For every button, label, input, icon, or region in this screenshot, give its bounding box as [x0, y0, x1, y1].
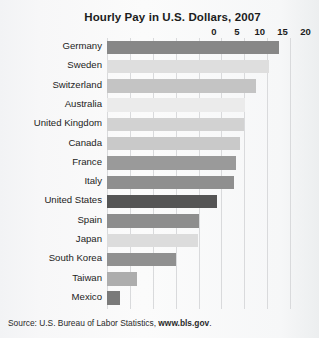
x-tick-5: 5 [234, 26, 239, 37]
category-label-united-states: United States [44, 193, 102, 207]
category-label-canada: Canada [68, 136, 102, 150]
x-tick-0: 0 [211, 26, 216, 37]
category-label-spain: Spain [77, 213, 102, 227]
x-tick-10: 10 [254, 26, 265, 37]
bar-row: Italy [107, 173, 290, 192]
bar-japan [107, 234, 198, 247]
x-axis-tick-labels: 0510152025303540 [107, 0, 290, 38]
bar-row: United States [107, 192, 290, 211]
bar-united-states [107, 195, 217, 208]
source-link[interactable]: www.bls.gov [158, 318, 209, 328]
plot-area: GermanySwedenSwitzerlandAustraliaUnited … [107, 38, 290, 309]
bar-united-kingdom [107, 118, 244, 131]
category-label-taiwan: Taiwan [72, 271, 102, 285]
bar-south-korea [107, 253, 176, 266]
category-label-sweden: Sweden [67, 58, 102, 72]
category-label-italy: Italy [84, 174, 102, 188]
chart-figure: Hourly Pay in U.S. Dollars, 2007 0510152… [0, 0, 319, 338]
category-label-australia: Australia [65, 97, 102, 111]
category-label-switzerland: Switzerland [52, 78, 102, 92]
bar-row: Australia [107, 96, 290, 115]
bar-row: France [107, 154, 290, 173]
bar-spain [107, 214, 199, 227]
x-tick-15: 15 [277, 26, 288, 37]
category-label-mexico: Mexico [72, 290, 102, 304]
category-label-france: France [72, 155, 102, 169]
bar-row: Sweden [107, 57, 290, 76]
bar-france [107, 156, 236, 169]
bar-row: United Kingdom [107, 115, 290, 134]
bar-row: Germany [107, 38, 290, 57]
bar-germany [107, 41, 279, 54]
bar-australia [107, 98, 245, 111]
bar-row: Japan [107, 231, 290, 250]
bar-taiwan [107, 272, 137, 285]
bar-italy [107, 176, 234, 189]
bar-sweden [107, 60, 269, 73]
source-prefix: Source: U.S. Bureau of Labor Statistics, [8, 318, 158, 328]
bar-row: Spain [107, 212, 290, 231]
source-note: Source: U.S. Bureau of Labor Statistics,… [8, 318, 212, 328]
bar-row: Canada [107, 135, 290, 154]
category-label-japan: Japan [76, 232, 102, 246]
x-tick-20: 20 [300, 26, 311, 37]
bar-canada [107, 137, 240, 150]
bar-row: South Korea [107, 250, 290, 269]
bar-row: Taiwan [107, 270, 290, 289]
category-label-south-korea: South Korea [49, 251, 102, 265]
category-label-germany: Germany [63, 39, 102, 53]
category-label-united-kingdom: United Kingdom [34, 116, 102, 130]
bar-mexico [107, 291, 120, 304]
source-suffix: . [209, 318, 211, 328]
bar-row: Switzerland [107, 77, 290, 96]
gridline-40 [290, 38, 291, 309]
bar-row: Mexico [107, 289, 290, 308]
bar-switzerland [107, 79, 256, 92]
